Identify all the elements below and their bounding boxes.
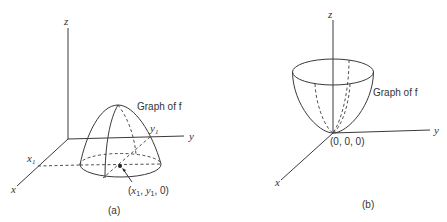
panel-b-front-right-meridian bbox=[333, 84, 350, 133]
panel-a-dome-outline bbox=[80, 105, 161, 165]
panel-a-y-axis bbox=[68, 136, 184, 139]
panel-a-x-axis bbox=[17, 139, 68, 186]
panel-b-x-axis bbox=[281, 133, 333, 180]
panel-b-x-label: x bbox=[274, 176, 280, 188]
panel-b: z y x Graph of f (0, 0, 0) (b) bbox=[274, 8, 439, 210]
panel-b-origin-label: (0, 0, 0) bbox=[330, 136, 364, 147]
panel-a-y1-projection bbox=[103, 137, 150, 178]
panel-a-caption: (a) bbox=[108, 205, 120, 216]
panel-a-x-label: x bbox=[10, 183, 16, 195]
panel-a-arrowhead-icon bbox=[122, 168, 126, 172]
panel-b-graph-label: Graph of f bbox=[373, 87, 418, 98]
panel-a-x1-projection bbox=[38, 165, 80, 166]
panel-a-y1-label: y1 bbox=[149, 122, 158, 136]
figure-canvas: z y x x1 y1 Graph of f (x1, y1, 0) (a) z… bbox=[0, 0, 447, 222]
panel-b-y-axis bbox=[333, 130, 430, 133]
panel-a-graph-label: Graph of f bbox=[137, 101, 182, 112]
panel-b-z-label: z bbox=[327, 8, 333, 20]
panel-a-x1-label: x1 bbox=[26, 152, 35, 166]
panel-a-z-label: z bbox=[63, 15, 69, 27]
panel-b-caption: (b) bbox=[362, 199, 374, 210]
panel-b-y-label: y bbox=[433, 124, 439, 136]
panel-a: z y x x1 y1 Graph of f (x1, y1, 0) (a) bbox=[10, 15, 194, 216]
panel-a-point-dot bbox=[118, 164, 122, 168]
panel-a-y-label: y bbox=[188, 130, 194, 142]
panel-a-point-label: (x1, y1, 0) bbox=[128, 184, 169, 197]
